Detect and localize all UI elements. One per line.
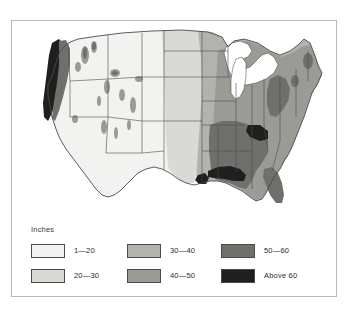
legend-item[interactable]: 30—40: [127, 242, 195, 259]
legend-column-1: 1—20 20—30: [31, 242, 99, 292]
legend-label-above-60: Above 60: [264, 271, 297, 280]
legend-column-3: 50—60 Above 60: [221, 242, 297, 292]
legend-item[interactable]: 40—50: [127, 267, 195, 284]
legend-label-50-60: 50—60: [264, 246, 289, 255]
legend-item[interactable]: 20—30: [31, 267, 99, 284]
legend-swatch-20-30: [31, 269, 65, 283]
legend-column-2: 30—40 40—50: [127, 242, 195, 292]
legend-swatch-30-40: [127, 244, 161, 258]
legend-label-40-50: 40—50: [170, 271, 195, 280]
legend-swatch-above-60: [221, 269, 255, 283]
legend-title: Inches: [31, 225, 54, 234]
legend-label-30-40: 30—40: [170, 246, 195, 255]
legend-label-20-30: 20—30: [74, 271, 99, 280]
figure-frame: Inches 1—20 20—30 30—40 40—50: [11, 20, 337, 297]
map-legend: Inches 1—20 20—30 30—40 40—50: [31, 225, 321, 291]
legend-swatch-1-20: [31, 244, 65, 258]
precipitation-map: [12, 21, 336, 226]
legend-item[interactable]: 50—60: [221, 242, 297, 259]
legend-label-1-20: 1—20: [74, 246, 95, 255]
legend-swatch-50-60: [221, 244, 255, 258]
map-svg: [12, 21, 336, 226]
legend-item[interactable]: 1—20: [31, 242, 99, 259]
legend-item[interactable]: Above 60: [221, 267, 297, 284]
legend-swatch-40-50: [127, 269, 161, 283]
